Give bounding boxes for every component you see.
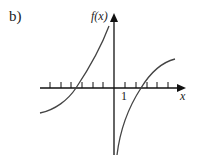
x-axis-arrow-icon [177, 84, 186, 92]
plot-area [0, 0, 199, 165]
curve-right-branch [117, 59, 175, 155]
x-axis-ticks [50, 82, 168, 88]
y-axis-arrow-icon [110, 13, 118, 22]
curve-left-branch [40, 26, 109, 113]
